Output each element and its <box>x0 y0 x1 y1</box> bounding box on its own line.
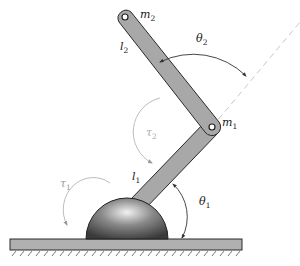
joint-m1-pin <box>209 124 215 130</box>
robot-arm-diagram: m2 l2 θ2 m1 τ2 l1 θ1 τ1 <box>0 0 300 266</box>
label-theta1: θ1 <box>199 195 210 210</box>
label-l1: l1 <box>132 170 140 185</box>
ground-hatching <box>12 251 240 256</box>
link-2 <box>118 10 220 135</box>
label-l2: l2 <box>120 40 129 55</box>
ground-bar <box>10 239 242 250</box>
label-tau1: τ1 <box>60 177 71 192</box>
label-m2: m2 <box>140 8 155 23</box>
link1-extension-dashed-line <box>212 22 300 127</box>
base-dome <box>86 198 168 239</box>
end-m2-pin <box>122 14 128 20</box>
label-tau2: τ2 <box>146 126 157 141</box>
theta1-angle-arc <box>173 184 187 238</box>
label-theta2: θ2 <box>196 32 208 47</box>
label-m1: m1 <box>222 116 237 131</box>
